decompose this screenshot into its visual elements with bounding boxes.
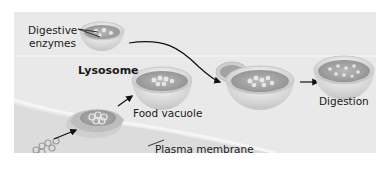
pocket-to-vacuole-arrow: [118, 96, 132, 106]
digestive-enzymes-label-line1: Digestive: [28, 24, 77, 36]
food-vacuole-label: Food vacuole: [133, 107, 202, 119]
plasma-membrane-label: Plasma membrane: [155, 143, 254, 153]
digestion-label: Digestion: [319, 95, 369, 107]
diagram-panel: Digestive enzymes Lysosome Food vacuole …: [14, 12, 376, 153]
digestion-vesicle-icon: [314, 56, 374, 100]
digestive-enzymes-label-line2: enzymes: [29, 37, 76, 49]
lysosome-vesicle-icon: [80, 22, 124, 51]
lysosome-label: Lysosome: [78, 65, 139, 77]
food-vacuole-icon: [132, 67, 192, 110]
fusion-vesicle-icon: [216, 62, 294, 110]
